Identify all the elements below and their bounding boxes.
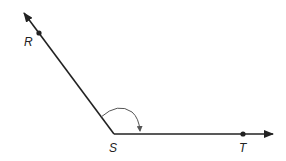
- angle-diagram: R S T: [0, 0, 286, 161]
- label-R: R: [24, 35, 33, 49]
- point-R-dot: [36, 30, 41, 35]
- label-S: S: [109, 141, 117, 155]
- angle-arc-icon: [101, 108, 140, 131]
- label-T: T: [239, 141, 248, 155]
- point-T-dot: [240, 131, 245, 136]
